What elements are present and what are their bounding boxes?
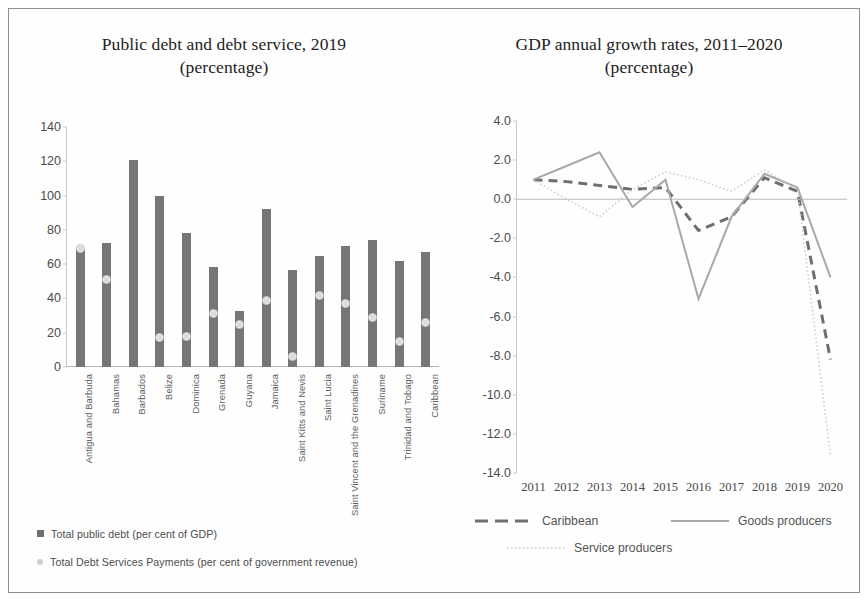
line-legend-item[interactable]: Service producers [507, 541, 672, 555]
bar-x-category-label: Saint Vincent and the Grenadines [350, 374, 360, 516]
bar-column[interactable] [368, 240, 377, 367]
line-y-tick-label: -12.0 [483, 427, 518, 441]
line-x-tick-label: 2020 [818, 480, 843, 495]
bar-column[interactable] [288, 270, 297, 367]
bar-column[interactable] [209, 267, 218, 367]
debt-service-marker[interactable] [395, 337, 404, 346]
bar-category-slot[interactable]: Dominica [173, 127, 200, 367]
bar-column[interactable] [129, 160, 138, 367]
legend-square-icon [37, 530, 44, 537]
bar-column[interactable] [182, 233, 191, 367]
line-legend-label: Service producers [574, 541, 672, 555]
bar-chart-title-line2: (percentage) [9, 56, 439, 79]
bar-category-slot[interactable]: Barbados [120, 127, 147, 367]
debt-service-marker[interactable] [368, 313, 377, 322]
line-y-tick-label: -14.0 [483, 466, 518, 480]
bar-category-slot[interactable]: Belize [147, 127, 174, 367]
line-chart-title-line2: (percentage) [439, 56, 859, 79]
line-plot-area: 4.02.00.0-2.0-4.0-6.0-8.0-10.0-12.0-14.0… [517, 121, 847, 473]
bar-category-slot[interactable]: Trinidad and Tobago [386, 127, 413, 367]
bar-chart-title: Public debt and debt service, 2019 (perc… [9, 33, 439, 79]
line-series-goods-producers[interactable] [534, 152, 831, 299]
line-legend-item[interactable]: Goods producers [671, 514, 832, 528]
bar-x-category-label: Antigua and Barbuda [84, 374, 94, 463]
line-series-group [517, 121, 847, 473]
line-legend-label: Caribbean [542, 514, 598, 528]
line-y-tick-label: -10.0 [483, 388, 518, 402]
bar-category-slot[interactable]: Suriname [359, 127, 386, 367]
bar-category-slot[interactable]: Antigua and Barbuda [67, 127, 94, 367]
debt-service-marker[interactable] [102, 275, 111, 284]
line-chart-title-line1: GDP annual growth rates, 2011–2020 [516, 34, 783, 54]
line-x-tick-label: 2013 [587, 480, 612, 495]
debt-service-marker[interactable] [76, 244, 85, 253]
line-series-service-producers[interactable] [534, 170, 831, 456]
bar-x-category-label: Guyana [244, 374, 254, 407]
bar-column[interactable] [341, 246, 350, 367]
bar-legend-label: Total Debt Services Payments (per cent o… [50, 555, 358, 570]
line-chart-panel: GDP annual growth rates, 2011–2020 (perc… [439, 9, 859, 594]
bar-column[interactable] [235, 311, 244, 367]
line-chart-title: GDP annual growth rates, 2011–2020 (perc… [439, 33, 859, 79]
bar-plot-area: 020406080100120140 Antigua and BarbudaBa… [67, 127, 439, 367]
bar-x-category-label: Grenada [217, 374, 227, 411]
debt-service-marker[interactable] [182, 332, 191, 341]
bar-x-category-label: Barbados [137, 374, 147, 415]
line-x-tick-label: 2019 [785, 480, 810, 495]
bar-column[interactable] [155, 196, 164, 367]
line-x-tick-label: 2017 [719, 480, 744, 495]
bar-chart-legend: Total public debt (per cent of GDP)Total… [37, 527, 427, 582]
bar-x-category-label: Trinidad and Tobago [403, 374, 413, 460]
bar-column[interactable] [395, 261, 404, 367]
bar-category-slot[interactable]: Saint Lucia [306, 127, 333, 367]
line-x-tick-label: 2011 [521, 480, 546, 495]
bar-chart-panel: Public debt and debt service, 2019 (perc… [9, 9, 439, 594]
line-series-caribbean[interactable] [534, 178, 831, 360]
bar-category-slot[interactable]: Guyana [226, 127, 253, 367]
bar-legend-label: Total public debt (per cent of GDP) [51, 527, 217, 542]
debt-service-marker[interactable] [288, 352, 297, 361]
bar-category-slot[interactable]: Caribbean [412, 127, 439, 367]
legend-line-icon [507, 543, 565, 553]
debt-service-marker[interactable] [209, 309, 218, 318]
bar-column[interactable] [76, 249, 85, 367]
bar-x-category-label: Bahamas [111, 374, 121, 414]
bar-x-category-label: Suriname [377, 374, 387, 415]
legend-line-icon [475, 516, 533, 526]
bar-x-category-label: Dominica [191, 374, 201, 414]
debt-service-marker[interactable] [262, 296, 271, 305]
legend-line-icon [671, 516, 729, 526]
bar-category-slot[interactable]: Jamaica [253, 127, 280, 367]
line-x-tick-label: 2015 [653, 480, 678, 495]
bar-x-category-label: Jamaica [270, 374, 280, 409]
bar-legend-item[interactable]: Total Debt Services Payments (per cent o… [37, 555, 427, 570]
bar-column[interactable] [262, 209, 271, 367]
bar-column[interactable] [421, 252, 430, 367]
bar-chart-title-line1: Public debt and debt service, 2019 [102, 34, 346, 54]
bar-column[interactable] [315, 256, 324, 367]
bar-category-slot[interactable]: Bahamas [94, 127, 121, 367]
line-x-tick-label: 2012 [554, 480, 579, 495]
line-legend-label: Goods producers [738, 514, 832, 528]
line-legend-item[interactable]: Caribbean [475, 514, 598, 528]
debt-service-marker[interactable] [155, 333, 164, 342]
line-x-tick-label: 2018 [752, 480, 777, 495]
bar-x-category-label: Saint Kitts and Nevis [297, 374, 307, 462]
figure-frame: Public debt and debt service, 2019 (perc… [8, 8, 860, 593]
legend-dot-icon [37, 559, 43, 565]
bar-category-slot[interactable]: Saint Kitts and Nevis [280, 127, 307, 367]
bar-x-category-label: Belize [164, 374, 174, 400]
bar-x-category-label: Saint Lucia [323, 374, 333, 421]
debt-service-marker[interactable] [315, 291, 324, 300]
bar-category-slot[interactable]: Saint Vincent and the Grenadines [333, 127, 360, 367]
line-x-tick-label: 2016 [686, 480, 711, 495]
bar-series-group: Antigua and BarbudaBahamasBarbadosBelize… [67, 127, 439, 367]
bar-legend-item[interactable]: Total public debt (per cent of GDP) [37, 527, 427, 542]
line-x-tick-label: 2014 [620, 480, 645, 495]
bar-category-slot[interactable]: Grenada [200, 127, 227, 367]
debt-service-marker[interactable] [341, 299, 350, 308]
debt-service-marker[interactable] [421, 318, 430, 327]
debt-service-marker[interactable] [235, 320, 244, 329]
bar-column[interactable] [102, 243, 111, 367]
line-series-svg [517, 121, 847, 473]
